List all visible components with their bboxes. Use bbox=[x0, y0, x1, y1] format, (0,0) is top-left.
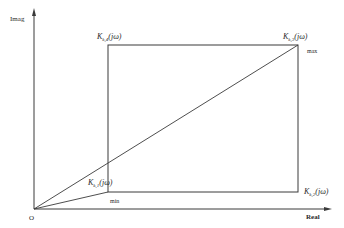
vertex-label-k3: Kk,3(jω) bbox=[283, 33, 308, 42]
max-phase-line bbox=[34, 45, 298, 209]
min-annotation: min bbox=[110, 198, 119, 204]
imag-axis-label: Imag bbox=[10, 16, 24, 23]
value-set-rectangle bbox=[108, 45, 298, 192]
vertex-label-k4: Kk,4(jω) bbox=[97, 33, 122, 42]
origin-label: O bbox=[29, 215, 34, 222]
min-phase-line bbox=[34, 192, 108, 209]
real-axis-label: Real bbox=[306, 214, 320, 221]
real-axis-arrow-icon bbox=[324, 207, 332, 211]
vertex-label-k1: Kk,1(jω) bbox=[88, 179, 113, 188]
vertex-label-k2: Kk,2(jω) bbox=[304, 188, 329, 197]
imag-axis-arrow-icon bbox=[32, 8, 36, 16]
max-annotation: max bbox=[307, 48, 317, 54]
